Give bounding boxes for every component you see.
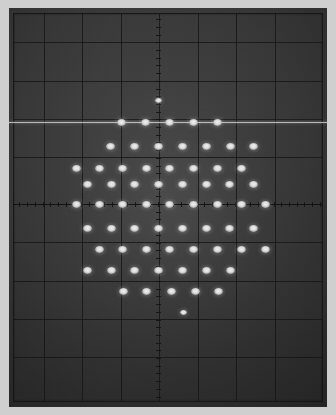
crt-screen (9, 8, 327, 407)
screenshot-root (0, 0, 336, 415)
film-grain-overlay (9, 8, 327, 407)
